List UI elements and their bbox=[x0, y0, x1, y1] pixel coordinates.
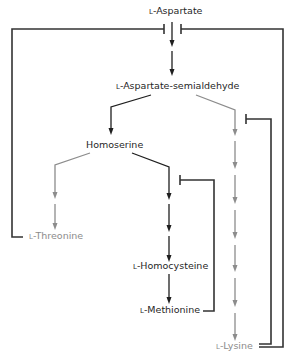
feedback-methionine bbox=[180, 175, 214, 311]
edge-aspartate-semialdehyde bbox=[170, 22, 175, 76]
edge-homoserine-methionine bbox=[132, 153, 172, 304]
node-l-homocysteine: L-Homocysteine bbox=[133, 260, 208, 273]
node-homoserine: Homoserine bbox=[86, 139, 143, 151]
edge-homoserine-threonine bbox=[53, 153, 91, 230]
feedback-lysine-to-lysine-branch bbox=[246, 114, 271, 344]
node-l-aspartate: L-Aspartate bbox=[149, 5, 202, 18]
feedback-threonine-to-aspartate bbox=[12, 24, 164, 237]
edge-semialdehyde-lysine bbox=[196, 95, 238, 341]
edge-semialdehyde-homoserine bbox=[109, 95, 152, 135]
feedback-lysine-to-aspartate bbox=[181, 24, 283, 347]
node-l-threonine: L-Threonine bbox=[29, 230, 83, 243]
node-l-methionine: L-Methionine bbox=[140, 304, 200, 317]
node-l-lysine: L-Lysine bbox=[216, 340, 253, 353]
node-l-aspartate-semialdehyde: L-Aspartate-semialdehyde bbox=[116, 80, 239, 93]
